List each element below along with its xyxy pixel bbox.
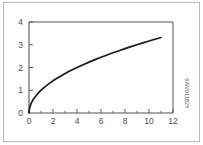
y-tick-label: 2	[18, 63, 23, 73]
x-tick-label: 4	[75, 116, 80, 126]
x-tick-label: 8	[123, 116, 128, 126]
y-tick-label: 3	[18, 40, 23, 50]
x-tick-label: 6	[99, 116, 104, 126]
y-tick-label: 0	[18, 108, 23, 118]
illustration-id-code: SAND1182Y	[178, 78, 190, 118]
y-tick-label: 1	[18, 85, 23, 95]
x-tick-label: 10	[144, 116, 154, 126]
plot-area: 02468101201234	[0, 0, 203, 145]
data-series-line	[29, 38, 161, 113]
x-tick-label: 2	[51, 116, 56, 126]
y-tick-label: 4	[18, 17, 23, 27]
chart-svg: 02468101201234	[0, 0, 203, 145]
x-tick-label: 12	[168, 116, 178, 126]
figure-container: 02468101201234 SAND1182Y	[0, 0, 203, 145]
x-tick-label: 0	[27, 116, 32, 126]
